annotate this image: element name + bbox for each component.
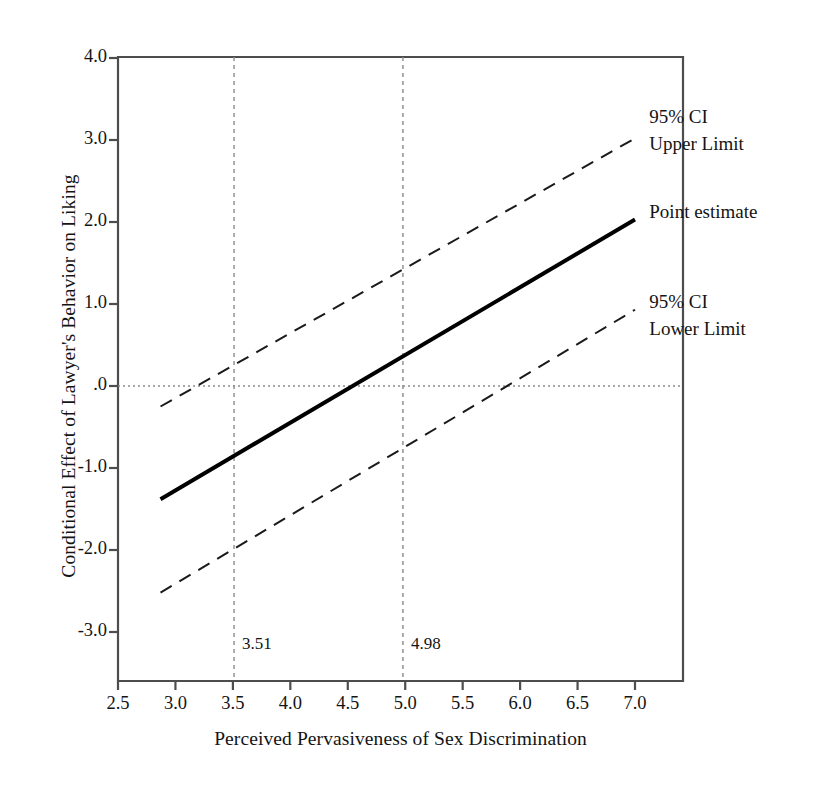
plot-frame	[118, 57, 683, 681]
annotation-line-1: Point estimate	[649, 198, 757, 225]
x-tick-label: 7.0	[605, 693, 665, 714]
y-tick-label: .0	[51, 374, 107, 395]
series-line-point-estimate	[161, 220, 635, 500]
x-tick-label: 3.5	[203, 693, 263, 714]
y-tick-label: 1.0	[51, 292, 107, 313]
vertical-reference-label-4.98: 4.98	[411, 634, 441, 654]
series-annotation: 95% CIUpper Limit	[649, 103, 743, 157]
vertical-reference-label-3.51: 3.51	[242, 634, 272, 654]
x-tick-label: 4.5	[318, 693, 378, 714]
annotation-line-1: 95% CI	[649, 288, 746, 315]
x-tick-label: 5.5	[433, 693, 493, 714]
y-tick-label: 2.0	[51, 210, 107, 231]
series-annotation: Point estimate	[649, 198, 757, 225]
chart-figure: Conditional Effect of Lawyer's Behavior …	[0, 0, 816, 786]
y-tick-label: -3.0	[51, 620, 107, 641]
y-tick-label: 4.0	[51, 46, 107, 67]
y-tick-label: -2.0	[51, 538, 107, 559]
series-line-95-ci-lower-limit	[161, 310, 635, 593]
x-tick-label: 6.5	[548, 693, 608, 714]
annotation-line-2: Upper Limit	[649, 130, 743, 157]
x-tick-label: 3.0	[145, 693, 205, 714]
y-tick-label: 3.0	[51, 128, 107, 149]
annotation-line-2: Lower Limit	[649, 315, 746, 342]
x-tick-label: 5.0	[375, 693, 435, 714]
y-tick-label: -1.0	[51, 456, 107, 477]
x-tick-label: 2.5	[88, 693, 148, 714]
series-line-95-ci-upper-limit	[161, 138, 635, 406]
annotation-line-1: 95% CI	[649, 103, 743, 130]
x-axis-title: Perceived Pervasiveness of Sex Discrimin…	[118, 728, 683, 750]
x-tick-label: 6.0	[490, 693, 550, 714]
series-annotation: 95% CILower Limit	[649, 288, 746, 342]
x-tick-label: 4.0	[260, 693, 320, 714]
